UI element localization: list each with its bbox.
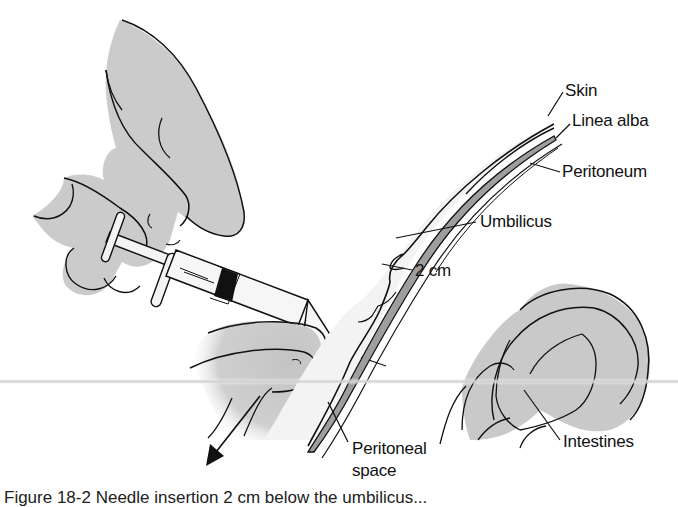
intestines bbox=[440, 283, 650, 448]
label-skin: Skin bbox=[565, 82, 597, 99]
label-distance: 2 cm bbox=[415, 262, 451, 279]
label-peritoneum: Peritoneum bbox=[562, 163, 647, 180]
label-intestines: Intestines bbox=[563, 433, 634, 450]
label-linea-alba: Linea alba bbox=[572, 112, 648, 129]
shadow-band bbox=[0, 378, 678, 385]
figure-caption: Figure 18-2 Needle insertion 2 cm below … bbox=[4, 489, 427, 506]
label-peritoneal-space-1: Peritoneal bbox=[352, 440, 427, 457]
label-peritoneal-space-2: space bbox=[352, 462, 396, 479]
label-umbilicus: Umbilicus bbox=[480, 213, 552, 230]
